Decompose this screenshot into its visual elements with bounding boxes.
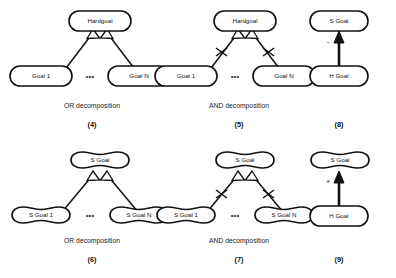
node-s-goal[interactable]: S Goal	[311, 152, 369, 168]
node-hardgoal[interactable]: Hardgoal	[69, 11, 131, 31]
node-label: Hardgoal	[87, 17, 112, 24]
solid-arrowhead-icon	[334, 31, 344, 43]
panel-4: Hardgoal Goal 1 ••• Goal N OR decomposit…	[10, 11, 170, 129]
node-label: S Goal N	[271, 211, 296, 218]
node-label: Goal N	[274, 72, 293, 79]
node-goal-1[interactable]: Goal 1	[155, 66, 217, 86]
panel-7-links	[207, 176, 283, 212]
node-label: H Goal	[329, 72, 348, 79]
node-label: Goal 1	[177, 72, 196, 79]
node-label: Goal N	[129, 72, 148, 79]
ellipsis-label: •••	[231, 211, 240, 220]
node-h-goal[interactable]: H Goal	[310, 66, 368, 86]
node-s-goal-1[interactable]: S Goal 1	[157, 207, 215, 223]
node-label: S Goal 1	[174, 211, 199, 218]
panel-number: (6)	[87, 255, 97, 264]
hollow-arrowhead-icon	[246, 171, 259, 181]
node-s-goal-n[interactable]: S Goal N	[255, 207, 313, 223]
panel-6: S Goal S Goal 1 ••• S Goal N OR decompos…	[12, 152, 168, 264]
node-label: S Goal	[330, 17, 349, 24]
panel-number: (9)	[334, 255, 344, 264]
node-s-goal[interactable]: S Goal	[71, 152, 129, 168]
node-label: S Goal 1	[29, 211, 54, 218]
node-label: H Goal	[329, 212, 348, 219]
ellipsis-label: •••	[86, 72, 95, 81]
node-label: S Goal	[331, 156, 350, 163]
contribution-sign: -	[327, 37, 330, 46]
goal-decomposition-figure: Hardgoal Goal 1 ••• Goal N OR decomposit…	[0, 0, 396, 278]
ellipsis-label: •••	[86, 211, 95, 220]
node-label: Hardgoal	[232, 17, 257, 24]
node-goal-1[interactable]: Goal 1	[10, 66, 72, 86]
node-label: Goal 1	[32, 72, 51, 79]
contribution-sign: +	[326, 177, 331, 186]
hollow-arrowhead-icon	[101, 171, 114, 181]
solid-arrowhead-icon	[334, 171, 344, 183]
node-s-goal-1[interactable]: S Goal 1	[12, 207, 70, 223]
node-hardgoal[interactable]: Hardgoal	[214, 11, 276, 31]
node-label: S Goal N	[126, 211, 151, 218]
panel-5: Hardgoal Goal 1 ••• Goal N AND decomposi…	[155, 11, 315, 129]
hollow-arrowhead-icon	[87, 171, 100, 181]
panel-number: (4)	[87, 120, 97, 129]
panel-caption: OR decomposition	[64, 237, 120, 245]
panel-9: + S Goal H Goal (9)	[310, 152, 369, 264]
node-h-goal[interactable]: H Goal	[310, 206, 368, 226]
ellipsis-label: •••	[231, 72, 240, 81]
node-label: S Goal	[91, 156, 110, 163]
panel-8: - S Goal H Goal (8)	[310, 11, 368, 129]
panel-number: (7)	[234, 255, 244, 264]
panel-number: (8)	[334, 120, 344, 129]
panel-7-arrowheads	[232, 171, 258, 181]
node-s-goal[interactable]: S Goal	[216, 152, 274, 168]
hollow-arrowhead-icon	[232, 171, 245, 181]
node-label: S Goal	[236, 156, 255, 163]
panel-caption: AND decomposition	[209, 102, 269, 110]
panel-caption: AND decomposition	[209, 237, 269, 245]
node-goal-n[interactable]: Goal N	[253, 66, 315, 86]
panel-7-tick-marks	[216, 190, 274, 198]
panel-5-tick-marks	[216, 48, 274, 56]
or-link-left	[62, 176, 92, 212]
panel-6-links	[62, 176, 138, 212]
panel-6-arrowheads	[87, 171, 113, 181]
panel-7: S Goal S Goal 1 ••• S Goal N AND decompo…	[157, 152, 313, 264]
node-s-goal[interactable]: S Goal	[310, 11, 368, 31]
panel-number: (5)	[234, 120, 244, 129]
panel-caption: OR decomposition	[64, 102, 120, 110]
